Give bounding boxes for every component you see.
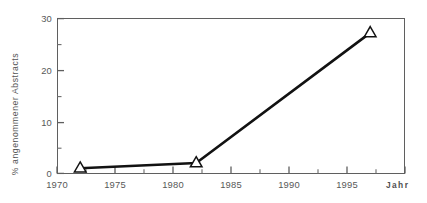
x-axis-label: Jahr xyxy=(386,180,409,190)
y-axis-minor-ticks xyxy=(57,45,62,149)
x-tick-label-1995: 1995 xyxy=(325,180,369,190)
x-tick-label-1975: 1975 xyxy=(93,180,137,190)
chart-figure: 30 20 10 0 1970 1975 1980 1985 1990 1995… xyxy=(0,0,427,203)
data-point-marker xyxy=(190,157,202,167)
data-point-markers xyxy=(74,27,376,172)
y-axis-major-ticks xyxy=(57,19,64,174)
y-tick-label-20: 20 xyxy=(26,66,52,76)
x-tick-label-1990: 1990 xyxy=(267,180,311,190)
y-tick-label-10: 10 xyxy=(26,118,52,128)
chart-vector-layer xyxy=(0,0,427,203)
data-series-line xyxy=(80,33,370,168)
y-tick-label-30: 30 xyxy=(26,14,52,24)
x-tick-label-1985: 1985 xyxy=(209,180,253,190)
y-axis-label: % angenommener Abstracts xyxy=(8,36,22,192)
data-point-marker xyxy=(364,27,376,37)
y-tick-label-0: 0 xyxy=(26,169,52,179)
x-tick-label-1980: 1980 xyxy=(151,180,195,190)
x-tick-label-1970: 1970 xyxy=(35,180,79,190)
